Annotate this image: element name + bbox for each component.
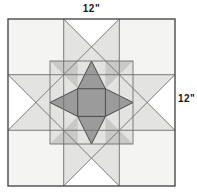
inner-star-center-square [78,89,106,117]
quilt-block-diagram [0,0,197,194]
inner-star-group [50,61,133,144]
top-dimension-label: 12" [0,3,183,14]
right-dimension-label: 12" [178,93,195,104]
